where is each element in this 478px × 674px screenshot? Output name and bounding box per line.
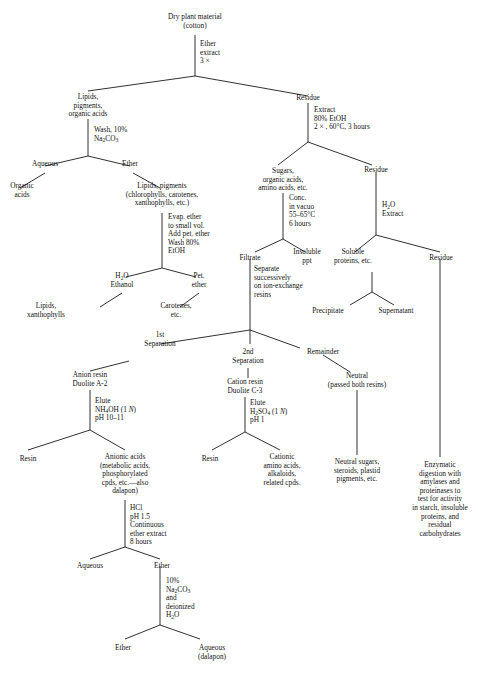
edge-remainder-neutral — [323, 355, 350, 372]
edge-h2oethanol-lipidsxan — [100, 293, 122, 307]
node-residue-top: Residue — [296, 94, 320, 103]
node-ether-3: Ether — [115, 644, 131, 653]
node-h2o-ethanol: H2O Ethanol — [111, 272, 134, 289]
node-extract-80-etoh: Extract 80% EtOH 2 × , 60°C, 3 hours — [314, 106, 370, 132]
edge-residue2-residue3 — [376, 235, 440, 252]
node-lipids-pigments-detail: Lipids, pigments (chlorophylls, carotene… — [126, 182, 198, 208]
edge-split1-right — [195, 76, 308, 96]
node-ether-extract-3x: Ether extract 3 × — [200, 40, 220, 66]
node-first-separation: 1st Separation — [144, 331, 175, 348]
edge-residue-sugars — [278, 142, 308, 165]
node-anionic-acids: Anionic acids (metabolic acids, phosphor… — [100, 453, 150, 496]
node-separate-successively: Separate successively on ion-exchange re… — [254, 265, 303, 299]
node-aqueous-dalapon: Aqueous (dalapon) — [198, 644, 226, 661]
node-conc-in-vacuo: Conc. in vacuo 55–65°C 6 hours — [289, 194, 315, 228]
node-wash-na2co3: Wash, 10% Na2CO3 — [94, 126, 127, 143]
edge-split1-left — [88, 76, 195, 91]
node-aqueous-2: Aqueous — [77, 562, 103, 571]
node-soluble-proteins: Soluble proteins, etc. — [334, 248, 372, 265]
edge-soluble-precipitate — [350, 292, 372, 305]
node-na2co3-deionized: 10% Na2CO3 and deionized H2O — [166, 577, 195, 620]
node-pet-ether: Pet. ether — [192, 272, 207, 289]
node-dry-plant-material: Dry plant material (cotton) — [168, 13, 222, 30]
flow-diagram: Dry plant material (cotton) Ether extrac… — [0, 0, 478, 674]
node-lipids-pigments-organic-acids: Lipids, pigments, organic acids — [69, 93, 108, 119]
edge-anionic-ether — [125, 547, 160, 559]
node-cationic-amino-acids: Cationic amino acids, alkaloids, related… — [263, 453, 300, 487]
node-neutral-passed: Neutral (passed both resins) — [328, 372, 386, 389]
node-hcl-step: HCl pH 1.5 Continuous ether extract 8 ho… — [130, 504, 167, 547]
node-elute-nh4oh: Elute NH4OH (1 N) pH 10–11 — [95, 397, 136, 423]
node-h2o-extract: H2O Extract — [382, 201, 403, 218]
node-neutral-sugars: Neutral sugars, steroids, plastid pigmen… — [334, 458, 380, 484]
node-resin-mid: Resin — [202, 455, 219, 464]
node-elute-h2so4: Elute H2SO4 (1 N) pH 1 — [250, 399, 287, 425]
edge-cation-cationic — [245, 432, 280, 450]
node-lipids-xanthophylls: Lipids, xanthophylls — [27, 302, 65, 319]
edge-anion-anionic — [90, 430, 125, 450]
node-residue-2: Residue — [364, 166, 388, 175]
edge-ether2-aqueous — [160, 625, 200, 639]
edge-residue-residue2 — [308, 142, 372, 165]
edge-sugars-filtrate — [255, 239, 283, 252]
edge-ether2-ether3 — [125, 625, 160, 639]
node-filtrate: Filtrate — [239, 254, 260, 263]
node-precipitate: Precipitate — [312, 307, 343, 316]
node-ether-1: Ether — [122, 160, 138, 169]
node-evap-ether: Evap. ether to small vol. Add pet. ether… — [168, 213, 210, 256]
node-residue-3: Residue — [429, 254, 453, 263]
edge-ionex-remainder — [250, 330, 300, 348]
node-carotenes-etc: Carotenes, etc. — [160, 302, 191, 319]
node-cation-resin: Cation resin Duolite C-3 — [227, 378, 263, 395]
node-supernatant: Supernatant — [378, 307, 413, 316]
node-second-separation: 2nd Separation — [232, 348, 263, 365]
edge-soluble-supernatant — [372, 292, 394, 305]
edge-cation-resin — [212, 432, 245, 450]
node-insoluble-ppt: Insoluble ppt — [293, 248, 320, 265]
node-sugars-organic-amino: Sugars, organic acids, amino acids, etc. — [258, 167, 307, 193]
node-anion-resin: Anion resin Duolite A-2 — [73, 371, 108, 388]
node-enzymatic-digestion: Enzymatic digestion with amylases and pr… — [412, 461, 468, 538]
node-ether-2: Ether — [154, 562, 170, 571]
node-organic-acids: Organic acids — [10, 182, 34, 199]
node-remainder: Remainder — [307, 348, 339, 357]
node-aqueous-1: Aqueous — [32, 160, 58, 169]
node-resin-left: Resin — [20, 455, 37, 464]
edge-anion-resin — [28, 430, 90, 450]
edge-anionic-aqueous — [90, 547, 125, 559]
